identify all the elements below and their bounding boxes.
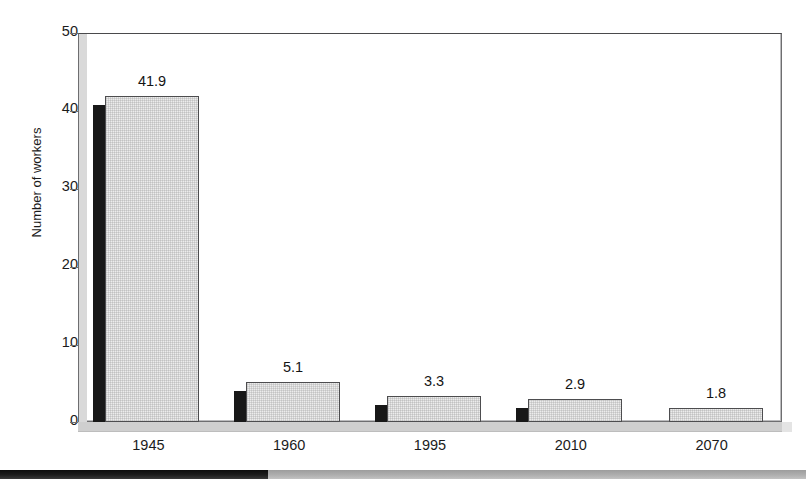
x-tick-label-1945: 1945 (88, 437, 208, 453)
chart-figure: Number of workers 50 40 30 20 10 0 41.95… (0, 0, 806, 485)
baseline-ground-lip (782, 422, 792, 432)
x-tick-label-1960: 1960 (229, 437, 349, 453)
plot-left-wall (79, 34, 87, 422)
plot-area (78, 33, 782, 422)
y-tick-label-30: 30 (32, 178, 78, 194)
y-axis: Number of workers 50 40 30 20 10 0 (0, 0, 78, 485)
x-tick-label-2070: 2070 (652, 437, 772, 453)
y-tick-label-50: 50 (32, 23, 78, 39)
y-tick-label-40: 40 (32, 100, 78, 116)
baseline-ground (78, 422, 782, 432)
footer-rule-dark (0, 470, 268, 479)
y-tick-label-0: 0 (32, 412, 78, 428)
x-tick-label-1995: 1995 (370, 437, 490, 453)
footer-rule-light (268, 470, 806, 479)
x-tick-label-2010: 2010 (511, 437, 631, 453)
y-tick-label-20: 20 (32, 256, 78, 272)
y-tick-label-10: 10 (32, 334, 78, 350)
